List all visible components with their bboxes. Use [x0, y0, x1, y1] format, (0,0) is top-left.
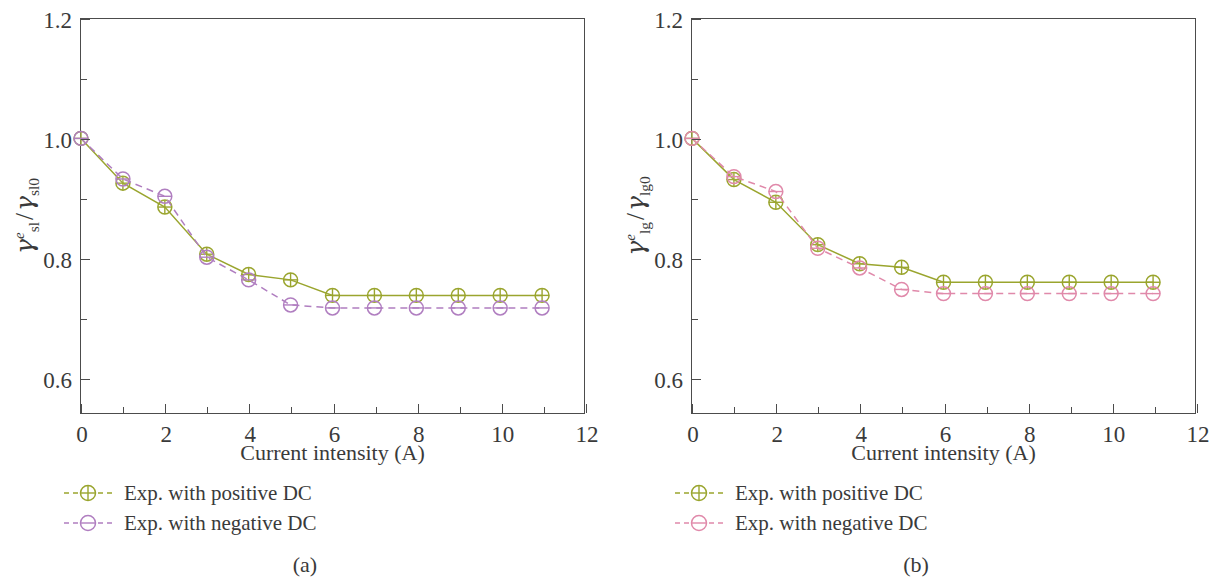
x-tick-major-a: 6	[334, 404, 335, 413]
data-point-marker-b	[811, 241, 825, 255]
x-tick-major-b: 6	[945, 404, 946, 413]
x-tick-major-a: 2	[165, 404, 166, 413]
x-tick-major-b: 8	[1029, 404, 1030, 413]
data-point-marker-b	[769, 185, 783, 199]
series-positive-dc-a	[74, 131, 549, 302]
legend-item-positive-dc-a[interactable]: Exp. with positive DC	[62, 478, 316, 508]
data-point-marker-b	[1062, 287, 1076, 301]
y-tick-label-b: 0.8	[654, 249, 683, 272]
x-tick-minor-a	[376, 407, 377, 413]
x-tick-minor-b	[734, 407, 735, 413]
y-tick-minor-a	[81, 79, 87, 80]
y-tick-major-b: 0.6	[692, 379, 701, 380]
x-tick-major-a: 0	[81, 404, 82, 413]
y-tick-major-a: 1.2	[81, 19, 90, 20]
legend-a: Exp. with positive DC Exp. with negative…	[62, 478, 316, 538]
x-tick-minor-b	[818, 407, 819, 413]
x-tick-minor-a	[207, 407, 208, 413]
panel-caption-a: (a)	[0, 552, 610, 578]
series-positive-dc-b	[685, 131, 1160, 289]
x-axis-title-b: Current intensity (A)	[691, 440, 1196, 466]
data-point-marker-b	[853, 261, 867, 275]
y-axis-sub-den-b: lg0	[636, 176, 653, 196]
x-tick-major-b: 10	[1113, 404, 1114, 413]
y-tick-major-b: 1.0	[692, 139, 701, 140]
data-point-marker-b	[1020, 287, 1034, 301]
y-tick-label-b: 0.6	[654, 369, 683, 392]
data-point-marker-b	[1104, 287, 1118, 301]
figure-root: γesl/γsl0 0.60.81.01.2024681012 Current …	[0, 0, 1221, 586]
legend-label-positive-dc-a: Exp. with positive DC	[124, 481, 312, 506]
y-tick-label-b: 1.0	[654, 129, 683, 152]
legend-label-negative-dc-b: Exp. with negative DC	[735, 511, 927, 536]
data-point-marker-b	[937, 287, 951, 301]
y-tick-major-a: 0.6	[81, 379, 90, 380]
y-tick-minor-b	[692, 199, 698, 200]
x-tick-major-b: 12	[1197, 404, 1198, 413]
y-tick-major-a: 1.0	[81, 139, 90, 140]
data-point-marker-a	[284, 273, 298, 287]
y-tick-label-a: 1.2	[43, 9, 72, 32]
y-tick-major-b: 1.2	[692, 19, 701, 20]
y-axis-slash-a: /	[11, 211, 38, 222]
data-point-marker-a	[493, 301, 507, 315]
data-point-marker-b	[727, 170, 741, 184]
x-tick-minor-a	[460, 407, 461, 413]
legend-label-negative-dc-a: Exp. with negative DC	[124, 511, 316, 536]
data-point-marker-a	[409, 301, 423, 315]
data-point-marker-b	[978, 287, 992, 301]
y-tick-label-a: 1.0	[43, 129, 72, 152]
x-tick-major-a: 4	[249, 404, 250, 413]
x-tick-minor-b	[1155, 407, 1156, 413]
legend-item-negative-dc-a[interactable]: Exp. with negative DC	[62, 508, 316, 538]
x-tick-major-b: 2	[776, 404, 777, 413]
legend-item-negative-dc-b[interactable]: Exp. with negative DC	[673, 508, 927, 538]
legend-marker-circle-minus-icon-b	[673, 510, 725, 536]
data-point-marker-b	[1146, 287, 1160, 301]
y-tick-minor-b	[692, 319, 698, 320]
y-axis-sub-den-a: sl0	[25, 178, 42, 196]
x-tick-minor-a	[544, 407, 545, 413]
y-tick-label-b: 1.2	[654, 9, 683, 32]
x-tick-major-a: 10	[502, 404, 503, 413]
plot-area-a: 0.60.81.01.2024681012	[80, 18, 585, 414]
legend-marker-circle-minus-icon-a	[62, 510, 114, 536]
x-tick-minor-b	[1071, 407, 1072, 413]
x-axis-title-a: Current intensity (A)	[80, 440, 585, 466]
data-point-marker-b	[895, 260, 909, 274]
chart-panel-a: γesl/γsl0 0.60.81.01.2024681012 Current …	[0, 0, 610, 586]
chart-panel-b: γelg/γlg0 0.60.81.01.2024681012 Current …	[611, 0, 1221, 586]
data-point-marker-a	[367, 301, 381, 315]
data-point-marker-a	[200, 250, 214, 264]
x-tick-minor-a	[291, 407, 292, 413]
y-axis-sub-num-b: lg	[636, 222, 653, 234]
x-tick-major-a: 12	[586, 404, 587, 413]
y-tick-label-a: 0.6	[43, 369, 72, 392]
y-tick-major-a: 0.8	[81, 259, 90, 260]
data-point-marker-a	[326, 301, 340, 315]
x-tick-minor-a	[123, 407, 124, 413]
y-tick-minor-b	[692, 79, 698, 80]
legend-item-positive-dc-b[interactable]: Exp. with positive DC	[673, 478, 927, 508]
plot-svg-a	[81, 19, 584, 413]
legend-b: Exp. with positive DC Exp. with negative…	[673, 478, 927, 538]
data-point-marker-b	[895, 282, 909, 296]
x-tick-major-b: 0	[692, 404, 693, 413]
panel-caption-b: (b)	[611, 552, 1221, 578]
x-tick-major-a: 8	[418, 404, 419, 413]
y-tick-major-b: 0.8	[692, 259, 701, 260]
y-axis-sup-a: e	[11, 232, 27, 239]
data-point-marker-a	[242, 273, 256, 287]
y-axis-sup-b: e	[622, 234, 638, 241]
y-tick-minor-a	[81, 319, 87, 320]
x-tick-minor-b	[902, 407, 903, 413]
legend-marker-circle-plus-icon-a	[62, 480, 114, 506]
data-point-marker-a	[535, 301, 549, 315]
legend-marker-circle-plus-icon-b	[673, 480, 725, 506]
x-tick-minor-b	[987, 407, 988, 413]
plot-area-b: 0.60.81.01.2024681012	[691, 18, 1196, 414]
x-tick-major-b: 4	[860, 404, 861, 413]
data-point-marker-a	[451, 301, 465, 315]
y-tick-minor-a	[81, 199, 87, 200]
data-point-marker-a	[116, 172, 130, 186]
